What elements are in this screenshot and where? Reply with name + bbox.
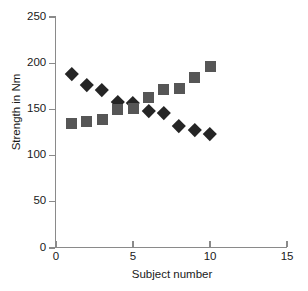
data-point-square — [66, 118, 77, 129]
y-tick-label: 200 — [27, 56, 46, 68]
data-point-diamond — [80, 78, 94, 92]
data-point-diamond — [95, 83, 109, 97]
y-tick-mark — [49, 16, 55, 17]
x-tick-mark — [55, 241, 56, 247]
y-tick-label: 100 — [27, 148, 46, 160]
data-point-square — [81, 116, 92, 127]
data-point-square — [205, 61, 216, 72]
x-tick-label: 5 — [118, 250, 148, 262]
x-tick-label: 10 — [195, 250, 225, 262]
chart-figure: 050100150200250 051015 Strength in Nm Su… — [0, 0, 308, 291]
y-tick-label: 150 — [27, 102, 46, 114]
y-tick-mark — [49, 201, 55, 202]
data-point-diamond — [157, 106, 171, 120]
y-axis-line — [55, 16, 56, 248]
data-point-diamond — [172, 119, 186, 133]
data-point-square — [174, 83, 185, 94]
x-tick-label: 15 — [272, 250, 302, 262]
data-point-square — [112, 104, 123, 115]
y-axis-title: Strength in Nm — [10, 47, 22, 177]
data-point-square — [97, 114, 108, 125]
data-point-square — [143, 92, 154, 103]
y-tick-mark — [49, 155, 55, 156]
x-tick-label: 0 — [41, 250, 71, 262]
x-axis-title: Subject number — [56, 268, 288, 280]
scatter-plot-area: 050100150200250 051015 Strength in Nm Su… — [0, 0, 308, 291]
x-tick-mark — [209, 241, 210, 247]
y-tick-label: 50 — [33, 194, 46, 206]
x-tick-mark — [132, 241, 133, 247]
data-point-diamond — [203, 127, 217, 141]
data-point-square — [128, 103, 139, 114]
y-tick-label: 250 — [27, 10, 46, 22]
y-tick-mark — [49, 63, 55, 64]
y-tick-mark — [49, 109, 55, 110]
y-tick-mark — [49, 247, 55, 248]
data-point-square — [158, 84, 169, 95]
data-point-diamond — [65, 67, 79, 81]
data-point-square — [189, 72, 200, 83]
data-point-diamond — [188, 123, 202, 137]
x-axis-line — [55, 247, 287, 248]
data-point-diamond — [142, 104, 156, 118]
x-tick-mark — [286, 241, 287, 247]
